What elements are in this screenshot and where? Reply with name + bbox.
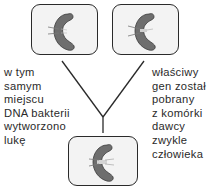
bacterium-icon (32, 5, 99, 56)
right-caption: właściwy gen został pobrany z komórki da… (152, 66, 206, 161)
left-caption: w tym samym miejscu DNA bakterii wytworz… (4, 66, 70, 148)
box-recombinant-bacterium (68, 136, 138, 186)
bacterium-icon (113, 5, 180, 56)
bacterium-icon (69, 137, 139, 187)
box-bacterium-with-gap (31, 4, 98, 55)
box-donor-gene-bacterium (112, 4, 179, 55)
